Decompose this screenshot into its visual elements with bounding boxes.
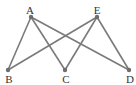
- edge-e-b: [8, 17, 97, 70]
- node-label-a: A: [26, 5, 34, 16]
- node-label-e: E: [94, 5, 101, 16]
- node-d: [127, 68, 131, 72]
- edge-e-c: [65, 17, 97, 70]
- node-c: [63, 68, 67, 72]
- edge-a-b: [8, 17, 31, 70]
- node-label-d: D: [126, 74, 134, 85]
- edge-a-d: [31, 17, 129, 70]
- node-label-b: B: [5, 74, 12, 85]
- node-label-c: C: [62, 74, 69, 85]
- edge-a-c: [31, 17, 65, 70]
- graph-diagram: A E B C D: [0, 0, 136, 85]
- node-b: [6, 68, 10, 72]
